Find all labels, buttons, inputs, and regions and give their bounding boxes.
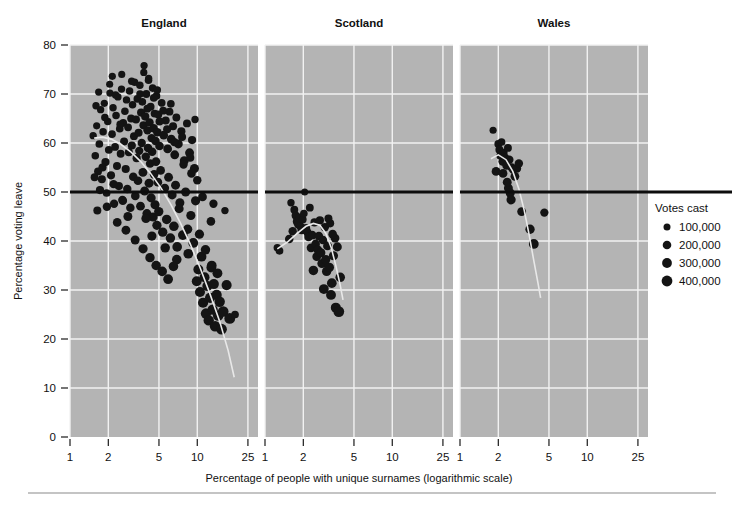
x-tick-label-10-wales: 10 [581,451,594,463]
data-point [167,100,175,108]
data-point [132,115,140,123]
data-point [188,136,196,144]
data-point [221,207,228,214]
data-point [193,176,201,184]
data-point [101,100,108,107]
data-point [158,99,166,107]
data-point [119,197,128,206]
data-point [306,204,314,212]
x-tick-label-25-england: 25 [242,451,255,463]
data-point [107,171,115,179]
panel-title-england: England [141,17,186,29]
y-tick-label-70: 70 [43,88,56,100]
x-tick-label-1-england: 1 [67,451,73,463]
x-tick-label-2-wales: 2 [495,451,501,463]
data-point [201,245,210,254]
data-point [503,178,512,187]
data-point [154,207,163,216]
data-point [178,133,186,141]
legend-marker-100000 [664,224,671,231]
data-point [109,104,116,111]
data-point [164,173,173,182]
data-point [136,81,143,88]
data-point [171,181,180,190]
data-point [135,129,143,137]
data-point [95,140,103,148]
data-point [152,157,161,166]
data-point [145,179,154,188]
data-point [157,267,167,277]
data-point [207,261,217,271]
data-point [498,138,506,146]
legend-label-400000: 400,000 [679,275,721,287]
y-tick-label-30: 30 [43,284,56,296]
data-point [121,107,128,114]
data-point [161,243,170,252]
data-point [123,96,130,103]
data-point [143,105,151,113]
data-point [163,125,171,133]
data-point [110,200,118,208]
data-point [287,199,294,206]
data-point [128,141,136,149]
data-point [195,230,204,239]
data-point [109,180,117,188]
data-point [300,210,308,218]
data-point [209,279,219,289]
data-point [113,218,122,227]
data-point [124,123,132,131]
data-point [109,73,116,80]
data-point [138,98,146,106]
y-axis-title: Percentage voting leave [12,182,24,300]
data-point [141,214,150,223]
data-point [212,268,222,278]
panel-title-wales: Wales [538,17,571,29]
data-point [316,216,324,224]
data-point [170,150,179,159]
y-tick-label-0: 0 [50,431,56,443]
data-point [98,163,106,171]
panel-title-scotland: Scotland [335,17,384,29]
data-point [140,62,147,69]
data-point [169,222,179,232]
data-point [231,311,239,319]
data-point [156,166,165,175]
data-point [309,266,319,276]
data-point [169,262,179,272]
data-point [98,175,106,183]
data-point [150,94,158,102]
data-point [136,90,144,98]
data-point [103,202,111,210]
data-point [504,144,512,152]
data-point [186,211,195,220]
data-point [108,130,116,138]
x-tick-label-2-scotland: 2 [300,451,306,463]
data-point [326,290,336,300]
x-tick-label-5-wales: 5 [546,451,552,463]
legend-label-100000: 100,000 [679,221,721,233]
x-tick-label-25-wales: 25 [632,451,645,463]
legend-title: Votes cast [655,202,709,214]
data-point [135,147,143,155]
data-point [106,81,113,88]
data-point [129,101,137,109]
data-point [121,226,130,235]
data-point [186,154,194,162]
legend-label-300000: 300,000 [679,257,721,269]
x-tick-label-5-england: 5 [156,451,162,463]
legend-marker-400000 [662,276,673,287]
data-point [156,117,164,125]
x-tick-label-25-scotland: 25 [437,451,450,463]
x-tick-label-10-scotland: 10 [386,451,399,463]
data-point [138,244,147,253]
x-tick-label-5-scotland: 5 [351,451,357,463]
data-point [111,143,119,151]
data-point [126,87,133,94]
data-point [499,169,508,178]
data-point [179,160,187,168]
data-point [183,249,193,259]
data-point [118,85,125,92]
data-point [140,69,147,76]
data-point [175,204,184,213]
data-point [113,162,121,170]
